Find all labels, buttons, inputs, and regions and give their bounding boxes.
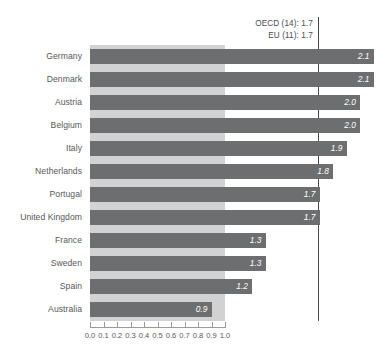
bar-row: Australia0.9 [0,298,391,321]
bar-row: Sweden1.3 [0,252,391,275]
bar-row: Germany2.1 [0,45,391,68]
bar-row: Austria2.0 [0,91,391,114]
x-axis-tick [171,322,172,328]
bar-category-label: Belgium [0,114,82,137]
x-axis-tick [117,322,118,328]
bar-category-label: Portugal [0,183,82,206]
bar-value-label: 2.0 [344,95,356,110]
x-axis-tick [144,322,145,328]
bar-value-label: 1.2 [236,279,248,294]
x-axis-tick-label: 0.1 [98,331,109,340]
bar-rows: Germany2.1Denmark2.1Austria2.0Belgium2.0… [0,45,391,321]
bar: 1.2 [90,279,252,294]
bar-row: Netherlands1.8 [0,160,391,183]
bar-category-label: Australia [0,298,82,321]
x-axis [90,322,225,328]
bar-category-label: Spain [0,275,82,298]
bar: 1.3 [90,256,266,271]
bar-row: Italy1.9 [0,137,391,160]
x-axis-tick-label: 0.9 [206,331,217,340]
bar-row: Portugal1.7 [0,183,391,206]
bar-value-label: 2.1 [358,72,370,87]
bar: 1.8 [90,164,333,179]
bar-category-label: Netherlands [0,160,82,183]
annotation-oecd: OECD (14): 1.7 [180,18,313,30]
x-axis-tick [131,322,132,328]
x-axis-tick-label: 1.0 [220,331,231,340]
x-axis-tick [158,322,159,328]
x-axis-tick-label: 0.2 [112,331,123,340]
bar-value-label: 1.9 [331,141,343,156]
x-axis-tick [185,322,186,328]
bar-row: Denmark2.1 [0,68,391,91]
bar-category-label: Germany [0,45,82,68]
bar-category-label: United Kingdom [0,206,82,229]
bar-category-label: Italy [0,137,82,160]
bar-category-label: Sweden [0,252,82,275]
bar: 2.0 [90,118,360,133]
x-axis-tick-label: 0.4 [139,331,150,340]
bar-value-label: 2.1 [358,49,370,64]
x-axis-tick-label: 0.3 [125,331,136,340]
x-axis-tick [212,322,213,328]
bar-row: United Kingdom1.7 [0,206,391,229]
bar-value-label: 0.9 [196,302,208,317]
bar: 2.1 [90,49,374,64]
x-axis-tick [104,322,105,328]
reference-annotations: OECD (14): 1.7 EU (11): 1.7 [180,18,313,42]
bar-category-label: Austria [0,91,82,114]
bar-row: France1.3 [0,229,391,252]
bar: 2.0 [90,95,360,110]
bar-value-label: 2.0 [344,118,356,133]
bar-value-label: 1.8 [317,164,329,179]
bar-value-label: 1.3 [250,256,262,271]
bar-value-label: 1.7 [304,187,316,202]
bar-category-label: France [0,229,82,252]
x-axis-tick-label: 0.8 [193,331,204,340]
bar-category-label: Denmark [0,68,82,91]
plot-area: Germany2.1Denmark2.1Austria2.0Belgium2.0… [0,45,391,321]
bar-value-label: 1.7 [304,210,316,225]
x-axis-tick-label: 0.7 [179,331,190,340]
bar: 2.1 [90,72,374,87]
x-axis-tick-labels: 0.00.10.20.30.40.50.60.70.80.91.0 [90,331,225,343]
bar-chart: OECD (14): 1.7 EU (11): 1.7 Germany2.1De… [0,0,391,363]
bar-row: Belgium2.0 [0,114,391,137]
bar: 1.7 [90,187,320,202]
x-axis-tick-label: 0.5 [152,331,163,340]
bar: 1.9 [90,141,347,156]
x-axis-tick-label: 0.0 [85,331,96,340]
bar-value-label: 1.3 [250,233,262,248]
x-axis-tick-label: 0.6 [166,331,177,340]
x-axis-tick [198,322,199,328]
bar-row: Spain1.2 [0,275,391,298]
bar: 1.3 [90,233,266,248]
bar: 0.9 [90,302,212,317]
x-axis-tick [90,322,91,328]
x-axis-tick [225,322,226,328]
annotation-eu: EU (11): 1.7 [180,30,313,42]
bar: 1.7 [90,210,320,225]
